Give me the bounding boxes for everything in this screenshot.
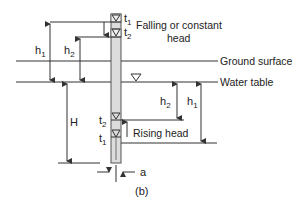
h1-left-label: h1 (35, 44, 46, 59)
figure-caption: (b) (135, 185, 148, 197)
h2-right-label: h2 (160, 95, 171, 110)
falling-head-label: Falling or constant (136, 19, 222, 31)
diameter-label: a (140, 166, 147, 178)
t2-bottom-label: t2 (99, 114, 107, 129)
t1-bottom-label: t1 (99, 132, 107, 147)
t2-top-label: t2 (124, 26, 132, 41)
falling-head-label-2: head (167, 32, 191, 44)
rising-head-label: Rising head (133, 127, 189, 139)
h1-right-label: h1 (187, 95, 198, 110)
water-table-label: Water table (220, 76, 273, 88)
well-test-diagram: t1 t2 Falling or constant head Ground su… (0, 0, 302, 213)
ground-surface-label: Ground surface (220, 55, 293, 67)
t1-top-label: t1 (124, 12, 132, 27)
water-table-marker-icon (131, 74, 141, 81)
h2-left-label: h2 (64, 44, 75, 59)
H-label: H (70, 116, 78, 128)
